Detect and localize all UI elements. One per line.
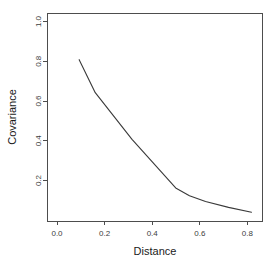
y-axis-ticks xyxy=(43,22,47,181)
y-tick-label-0.6: 0.6 xyxy=(34,95,43,107)
y-tick-label-1.0: 1.0 xyxy=(34,15,43,27)
covariance-distance-line-chart: 1.0 0.8 0.6 0.4 0.2 0.0 0.2 0.4 0.6 0.8 … xyxy=(0,0,278,266)
chart-figure: 1.0 0.8 0.6 0.4 0.2 0.0 0.2 0.4 0.6 0.8 … xyxy=(0,0,278,266)
y-axis-title: Covariance xyxy=(6,89,18,145)
y-tick-label-0.8: 0.8 xyxy=(34,55,43,67)
y-tick-label-0.2: 0.2 xyxy=(34,174,43,186)
x-tick-label-0.2: 0.2 xyxy=(99,229,111,238)
y-tick-label-0.4: 0.4 xyxy=(34,135,43,147)
y-axis-tick-labels: 1.0 0.8 0.6 0.4 0.2 xyxy=(34,15,43,186)
x-tick-label-0.6: 0.6 xyxy=(194,229,206,238)
x-tick-label-0.8: 0.8 xyxy=(242,229,254,238)
x-axis-tick-labels: 0.0 0.2 0.4 0.6 0.8 xyxy=(51,229,253,238)
plot-panel-background xyxy=(47,13,263,221)
x-tick-label-0.4: 0.4 xyxy=(147,229,159,238)
x-tick-label-0.0: 0.0 xyxy=(51,229,63,238)
x-axis-title: Distance xyxy=(134,245,177,257)
